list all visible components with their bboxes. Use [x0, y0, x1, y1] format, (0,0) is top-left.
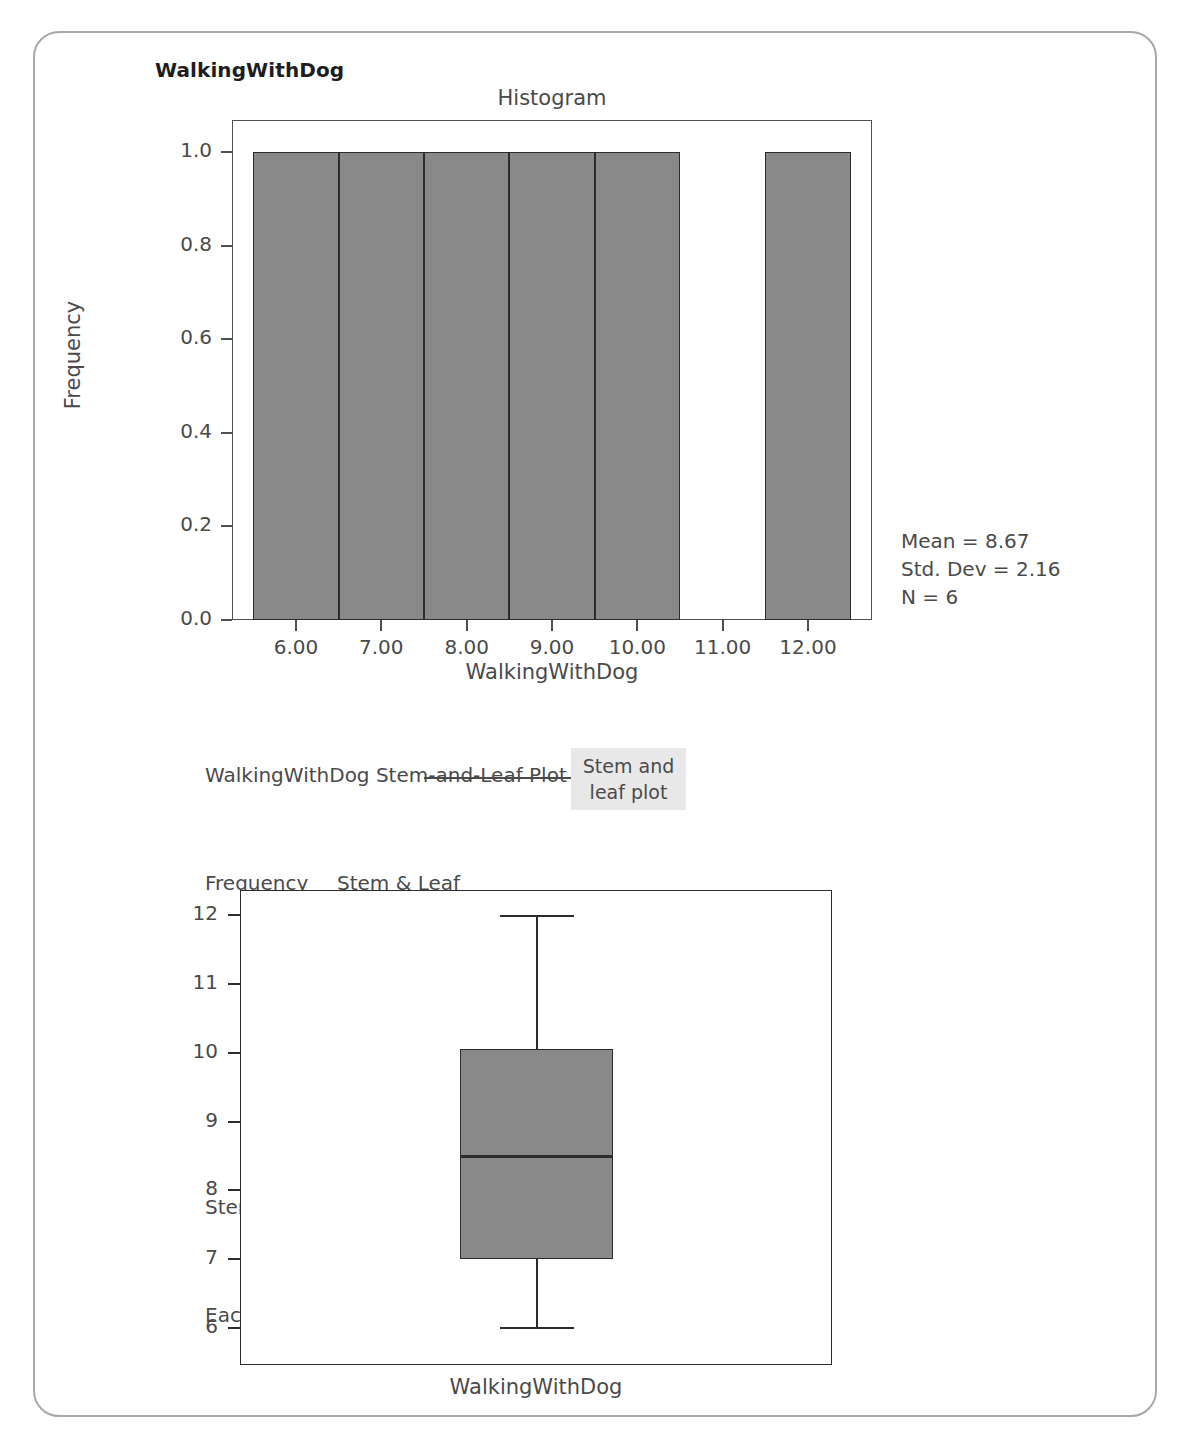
boxplot-y-tick-mark [228, 1258, 240, 1260]
histogram-y-tick-mark [221, 619, 232, 621]
histogram-x-tick-label: 8.00 [422, 635, 512, 659]
histogram-bar-10 [595, 152, 680, 620]
boxplot-y-tick-mark [228, 914, 240, 916]
histogram-x-axis-label: WalkingWithDog [232, 660, 872, 684]
histogram-x-tick-label: 6.00 [251, 635, 341, 659]
histogram-y-tick-mark [221, 338, 232, 340]
histogram-mean-value: Mean = 8.67 [901, 527, 1061, 555]
histogram-y-tick-label: 1.0 [180, 138, 212, 162]
histogram-bar-6 [253, 152, 338, 620]
histogram-x-tick-label: 9.00 [507, 635, 597, 659]
histogram-bar-7 [339, 152, 424, 620]
histogram-x-tick-mark [295, 620, 297, 631]
histogram-x-tick-mark [380, 620, 382, 631]
boxplot-y-tick-label: 10 [193, 1039, 218, 1063]
histogram-statistics-annotation: Mean = 8.67 Std. Dev = 2.16 N = 6 [901, 527, 1061, 611]
histogram-x-tick-mark [807, 620, 809, 631]
histogram-x-tick-label: 10.00 [592, 635, 682, 659]
boxplot-y-tick-label: 6 [205, 1314, 218, 1338]
histogram-bar-9 [509, 152, 594, 620]
histogram-y-tick-label: 0.8 [180, 232, 212, 256]
boxplot-y-tick-mark [228, 983, 240, 985]
callout-line-1: Stem and [583, 753, 675, 779]
histogram-x-tick-mark [466, 620, 468, 631]
histogram-n-value: N = 6 [901, 583, 1061, 611]
histogram-y-tick-mark [221, 432, 232, 434]
boxplot-y-tick-mark [228, 1121, 240, 1123]
boxplot-box [460, 1049, 613, 1259]
boxplot-upper-whisker-line [536, 915, 538, 1051]
boxplot-lower-whisker-cap [500, 1327, 574, 1329]
callout-line-2: leaf plot [590, 779, 668, 805]
histogram-x-tick-label: 11.00 [678, 635, 768, 659]
histogram-chart: Histogram Frequency 0.0 0.2 0.4 0.6 0.8 … [0, 0, 1187, 700]
histogram-title: Histogram [232, 86, 872, 110]
callout-leader-line [424, 777, 571, 779]
histogram-y-axis-label: Frequency [61, 255, 85, 455]
histogram-x-tick-label: 12.00 [763, 635, 853, 659]
histogram-y-tick-mark [221, 525, 232, 527]
histogram-x-tick-label: 7.00 [336, 635, 426, 659]
boxplot-y-tick-mark [228, 1327, 240, 1329]
histogram-x-tick-mark [636, 620, 638, 631]
histogram-y-tick-label: 0.4 [180, 419, 212, 443]
callout-stem-and-leaf-plot: Stem and leaf plot [571, 748, 686, 810]
histogram-x-tick-mark [551, 620, 553, 631]
histogram-y-tick-mark [221, 245, 232, 247]
boxplot-y-tick-label: 9 [205, 1108, 218, 1132]
histogram-y-tick-label: 0.2 [180, 512, 212, 536]
boxplot-lower-whisker-line [536, 1259, 538, 1328]
boxplot-median-line [460, 1155, 613, 1158]
histogram-y-tick-label: 0.6 [180, 325, 212, 349]
histogram-bar-12 [765, 152, 850, 620]
boxplot-y-tick-label: 8 [205, 1176, 218, 1200]
histogram-bar-8 [424, 152, 509, 620]
boxplot-x-axis-label: WalkingWithDog [240, 1375, 832, 1399]
boxplot-y-tick-mark [228, 1189, 240, 1191]
histogram-y-tick-mark [221, 151, 232, 153]
histogram-stddev-value: Std. Dev = 2.16 [901, 555, 1061, 583]
histogram-x-tick-mark [722, 620, 724, 631]
histogram-bars-area [232, 120, 872, 620]
boxplot-y-tick-label: 7 [205, 1245, 218, 1269]
histogram-y-tick-label: 0.0 [180, 606, 212, 630]
stem-leaf-title: WalkingWithDog Stem-and-Leaf Plot [205, 762, 567, 789]
boxplot-y-tick-mark [228, 1052, 240, 1054]
boxplot-y-tick-label: 11 [193, 970, 218, 994]
boxplot-y-tick-label: 12 [193, 901, 218, 925]
